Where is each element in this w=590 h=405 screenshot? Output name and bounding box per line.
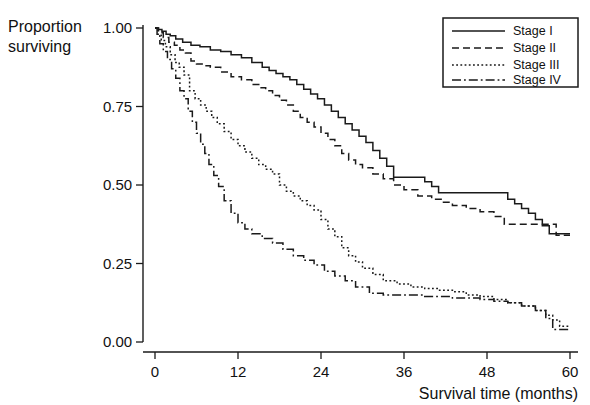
y-tick-label-0.25: 0.25 [103,255,132,272]
x-tick-label-0: 0 [151,363,159,380]
x-tick-label-24: 24 [313,363,330,380]
chart-page: Proportion surviving 1.00 0.75 0.50 0.25… [0,0,590,405]
x-tick-label-12: 12 [230,363,247,380]
legend-label-stage-iv: Stage IV [513,73,562,87]
x-axis-label: Survival time (months) [419,385,578,402]
legend-label-stage-i: Stage I [513,24,553,38]
y-tick-label-1.00: 1.00 [103,19,132,36]
x-tick-label-36: 36 [396,363,413,380]
y-tick-label-0.00: 0.00 [103,333,132,350]
survival-curve-chart: Proportion surviving 1.00 0.75 0.50 0.25… [0,0,590,405]
x-tick-label-60: 60 [562,363,579,380]
legend-label-stage-iii: Stage III [513,58,560,72]
x-tick-label-48: 48 [479,363,496,380]
y-tick-label-0.75: 0.75 [103,98,132,115]
legend-label-stage-ii: Stage II [513,41,556,55]
y-tick-label-0.50: 0.50 [103,176,132,193]
y-axis-label-line2: surviving [8,38,71,55]
legend: Stage I Stage II Stage III Stage IV [443,18,578,87]
y-axis-label-line1: Proportion [8,18,82,35]
